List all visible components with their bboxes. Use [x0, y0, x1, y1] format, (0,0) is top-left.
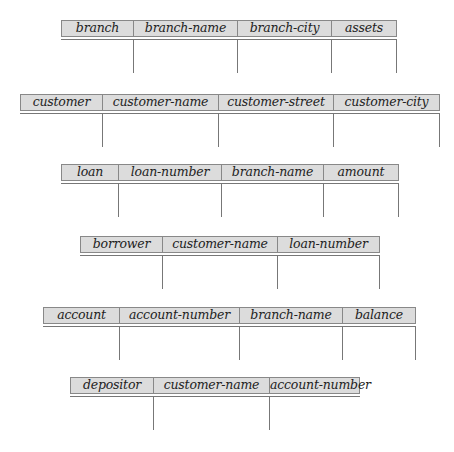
column-line — [133, 39, 134, 73]
attribute: branch-name — [133, 20, 237, 37]
column-line — [119, 326, 120, 360]
attribute: branch-city — [237, 20, 331, 37]
relation-name: depositor — [70, 377, 153, 394]
column-line — [277, 255, 278, 289]
column-line — [331, 39, 332, 73]
attribute: branch-name — [221, 164, 323, 181]
attribute: customer-city — [333, 94, 440, 111]
column-line — [218, 113, 219, 147]
column-line — [342, 326, 343, 360]
attribute: account-number — [269, 377, 360, 394]
column-line — [439, 113, 440, 147]
attribute: customer-street — [218, 94, 333, 111]
attribute: customer-name — [162, 236, 277, 253]
attribute: amount — [323, 164, 399, 181]
attribute: account-number — [119, 307, 239, 324]
relation-name: account — [43, 307, 119, 324]
column-line — [102, 113, 103, 147]
relation-name: borrower — [80, 236, 162, 253]
column-line — [333, 113, 334, 147]
attribute: customer-name — [153, 377, 269, 394]
double-rule — [20, 113, 440, 114]
attribute: assets — [331, 20, 397, 37]
double-rule — [61, 39, 397, 40]
attribute: customer-name — [102, 94, 218, 111]
relation-name: loan — [61, 164, 118, 181]
column-line — [162, 255, 163, 289]
attribute: balance — [342, 307, 416, 324]
column-line — [269, 396, 270, 430]
relation-name: customer — [20, 94, 102, 111]
double-rule — [80, 255, 380, 256]
double-rule — [43, 326, 416, 327]
column-line — [153, 396, 154, 430]
attribute: loan-number — [118, 164, 221, 181]
column-line — [118, 183, 119, 217]
double-rule — [70, 396, 360, 397]
relation-name: branch — [61, 20, 133, 37]
column-line — [323, 183, 324, 217]
double-rule — [61, 183, 399, 184]
column-line — [237, 39, 238, 73]
attribute: loan-number — [277, 236, 380, 253]
column-line — [239, 326, 240, 360]
column-line — [415, 326, 416, 360]
attribute: branch-name — [239, 307, 342, 324]
column-line — [398, 183, 399, 217]
column-line — [379, 255, 380, 289]
column-line — [221, 183, 222, 217]
column-line — [396, 39, 397, 73]
